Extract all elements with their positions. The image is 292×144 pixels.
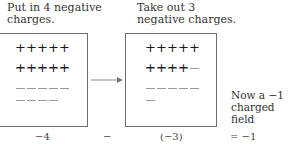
positive-charge-icon: + bbox=[59, 41, 70, 54]
positive-charge-icon: + bbox=[37, 41, 48, 54]
negative-charge-icon bbox=[156, 88, 167, 89]
right-charge-field: +++++ ++++ bbox=[125, 33, 217, 127]
negative-charge-icon bbox=[167, 88, 178, 89]
result-note-line-2: charged field bbox=[231, 101, 292, 125]
positive-charge-icon: + bbox=[37, 61, 48, 74]
positive-charge-icon: + bbox=[167, 61, 178, 74]
result-note-line-1: Now a −1 bbox=[231, 89, 292, 101]
left-row-4 bbox=[15, 86, 59, 105]
equation-operator: − bbox=[103, 131, 111, 142]
positive-charge-icon: + bbox=[156, 41, 167, 54]
positive-charge-icon: + bbox=[26, 61, 37, 74]
result-note: Now a −1 charged field bbox=[231, 89, 292, 125]
equation-term-2: (−3) bbox=[160, 131, 183, 142]
left-caption-line-2: charges. bbox=[7, 14, 102, 26]
positive-charge-icon: + bbox=[156, 61, 167, 74]
positive-charge-icon: + bbox=[26, 41, 37, 54]
negative-charge-icon bbox=[26, 100, 37, 101]
equation-result: = −1 bbox=[230, 131, 256, 142]
negative-charge-icon bbox=[59, 88, 70, 89]
negative-charge-icon bbox=[48, 100, 59, 101]
positive-charge-icon: + bbox=[145, 61, 156, 74]
positive-charge-icon: + bbox=[167, 41, 178, 54]
negative-charge-icon bbox=[189, 68, 200, 69]
positive-charge-icon: + bbox=[59, 61, 70, 74]
positive-charge-icon: + bbox=[48, 61, 59, 74]
negative-charge-icon bbox=[37, 100, 48, 101]
right-row-4 bbox=[145, 86, 156, 105]
equation-term-1: −4 bbox=[35, 131, 50, 142]
negative-charge-icon bbox=[178, 88, 189, 89]
negative-charge-icon bbox=[145, 100, 156, 101]
left-charge-field: +++++ +++++ bbox=[0, 33, 88, 127]
right-caption-line-2: negative charges. bbox=[137, 14, 236, 26]
negative-charge-icon bbox=[189, 88, 200, 89]
left-caption: Put in 4 negative charges. bbox=[7, 2, 102, 26]
arrow-right-icon bbox=[90, 76, 124, 84]
positive-charge-icon: + bbox=[189, 41, 200, 54]
positive-charge-icon: + bbox=[178, 61, 189, 74]
right-caption: Take out 3 negative charges. bbox=[137, 2, 236, 26]
positive-charge-icon: + bbox=[48, 41, 59, 54]
positive-charge-icon: + bbox=[145, 41, 156, 54]
positive-charge-icon: + bbox=[15, 41, 26, 54]
positive-charge-icon: + bbox=[15, 61, 26, 74]
negative-charge-icon bbox=[15, 100, 26, 101]
positive-charge-icon: + bbox=[178, 41, 189, 54]
